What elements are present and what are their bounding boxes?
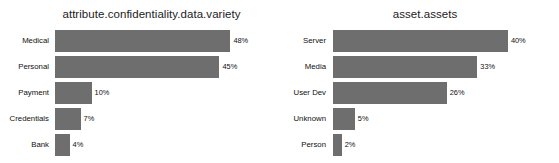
chart-title-left: attribute.confidentiality.data.variety bbox=[0, 7, 291, 21]
bar-row: Person2% bbox=[279, 132, 559, 158]
bar-row: Credentials7% bbox=[0, 106, 279, 132]
bar-row: Server40% bbox=[279, 28, 559, 54]
bar bbox=[333, 82, 447, 104]
bar bbox=[55, 30, 230, 52]
bar-value-label: 26% bbox=[450, 88, 465, 98]
chart-title-right: asset.assets bbox=[279, 7, 559, 21]
bar-container: 26% bbox=[333, 80, 557, 106]
bar-container: 10% bbox=[55, 80, 277, 106]
chart-panel-asset-assets: asset.assets Server40%Media33%User Dev26… bbox=[279, 0, 559, 163]
bar-value-label: 7% bbox=[84, 114, 95, 124]
bar-value-label: 10% bbox=[95, 88, 110, 98]
bar-value-label: 45% bbox=[222, 62, 237, 72]
bar bbox=[55, 134, 70, 156]
category-label-personal: Personal bbox=[0, 54, 53, 80]
bar-container: 4% bbox=[55, 132, 277, 158]
bar-value-label: 33% bbox=[480, 62, 495, 72]
bar bbox=[55, 56, 219, 78]
category-label-person: Person bbox=[279, 132, 330, 158]
bar-value-label: 4% bbox=[73, 140, 84, 150]
bar-row: Payment10% bbox=[0, 80, 279, 106]
category-label-unknown: Unknown bbox=[279, 106, 330, 132]
bar bbox=[333, 108, 355, 130]
bar-row: Media33% bbox=[279, 54, 559, 80]
bar-value-label: 40% bbox=[511, 36, 526, 46]
bar-container: 2% bbox=[333, 132, 557, 158]
plot-area-left: Medical48%Personal45%Payment10%Credentia… bbox=[0, 28, 279, 159]
bar-value-label: 5% bbox=[358, 114, 369, 124]
category-label-media: Media bbox=[279, 54, 330, 80]
bar-container: 48% bbox=[55, 28, 277, 54]
bar-container: 7% bbox=[55, 106, 277, 132]
bar-row: User Dev26% bbox=[279, 80, 559, 106]
bar-row: Unknown5% bbox=[279, 106, 559, 132]
plot-area-right: Server40%Media33%User Dev26%Unknown5%Per… bbox=[279, 28, 559, 159]
bar bbox=[333, 134, 342, 156]
bar-container: 5% bbox=[333, 106, 557, 132]
category-label-user-dev: User Dev bbox=[279, 80, 330, 106]
bar-row: Bank4% bbox=[0, 132, 279, 158]
category-label-server: Server bbox=[279, 28, 330, 54]
bar-container: 33% bbox=[333, 54, 557, 80]
bar bbox=[55, 82, 92, 104]
chart-panel-confidentiality-data-variety: attribute.confidentiality.data.variety M… bbox=[0, 0, 279, 163]
bar bbox=[55, 108, 81, 130]
chart-figure: attribute.confidentiality.data.variety M… bbox=[0, 0, 559, 163]
bar-row: Medical48% bbox=[0, 28, 279, 54]
bar bbox=[333, 30, 508, 52]
category-label-medical: Medical bbox=[0, 28, 53, 54]
bar-container: 45% bbox=[55, 54, 277, 80]
bar bbox=[333, 56, 477, 78]
category-label-payment: Payment bbox=[0, 80, 53, 106]
category-label-credentials: Credentials bbox=[0, 106, 53, 132]
category-label-bank: Bank bbox=[0, 132, 53, 158]
bar-row: Personal45% bbox=[0, 54, 279, 80]
bar-value-label: 48% bbox=[233, 36, 248, 46]
bar-container: 40% bbox=[333, 28, 557, 54]
bar-value-label: 2% bbox=[345, 140, 356, 150]
